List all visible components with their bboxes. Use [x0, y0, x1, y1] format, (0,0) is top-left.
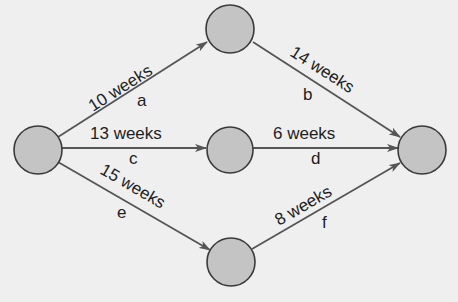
edge-d-duration: 6 weeks — [273, 124, 335, 143]
edge-a: 10 weeks a — [58, 42, 207, 137]
node-end — [398, 126, 446, 174]
edge-e-activity: e — [117, 203, 126, 222]
arrow-f — [252, 163, 400, 249]
edge-c: 13 weeks c — [62, 124, 206, 168]
edge-e: 15 weeks e — [58, 160, 210, 250]
arrow-b — [253, 42, 400, 137]
edge-b-duration: 14 weeks — [287, 42, 358, 97]
edge-a-activity: a — [137, 91, 147, 110]
edge-b-activity: b — [303, 85, 312, 104]
edge-f: 8 weeks f — [252, 163, 400, 249]
node-bottom — [207, 238, 255, 286]
node-start — [14, 126, 62, 174]
node-top — [206, 5, 254, 53]
edge-d-activity: d — [311, 149, 320, 168]
edge-b: 14 weeks b — [253, 42, 400, 137]
edge-d: 6 weeks d — [253, 124, 398, 168]
edge-c-activity: c — [129, 149, 138, 168]
network-diagram: 10 weeks a 14 weeks b 13 weeks c 6 weeks… — [0, 0, 458, 302]
edge-c-duration: 13 weeks — [90, 124, 162, 143]
edge-f-activity: f — [322, 213, 327, 232]
node-middle — [207, 127, 253, 173]
